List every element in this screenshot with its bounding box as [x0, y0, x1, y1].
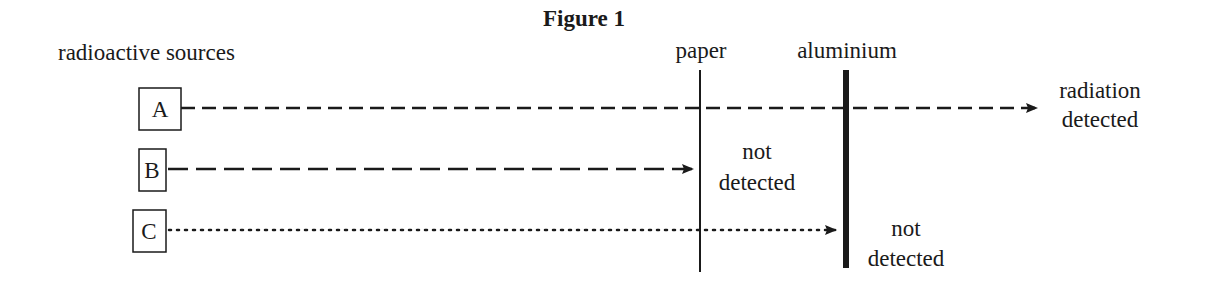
sources-label: radioactive sources	[58, 40, 235, 65]
source-b-outcome-line2: detected	[719, 170, 796, 195]
source-c: C not detected	[133, 210, 945, 271]
source-b: B not detected	[139, 139, 796, 195]
source-a: A radiation detected	[139, 78, 1141, 132]
figure-title: Figure 1	[543, 6, 625, 31]
source-c-label: C	[141, 219, 156, 244]
aluminium-label: aluminium	[797, 38, 897, 63]
source-a-label: A	[152, 97, 169, 122]
source-c-outcome-line2: detected	[868, 246, 945, 271]
source-a-outcome-line2: detected	[1062, 107, 1139, 132]
source-b-outcome-line1: not	[742, 139, 772, 164]
source-a-outcome-line1: radiation	[1059, 78, 1141, 103]
source-b-label: B	[144, 158, 159, 183]
source-c-outcome-line1: not	[891, 216, 921, 241]
figure-diagram: Figure 1 radioactive sources paper alumi…	[0, 0, 1207, 289]
paper-label: paper	[675, 38, 726, 63]
